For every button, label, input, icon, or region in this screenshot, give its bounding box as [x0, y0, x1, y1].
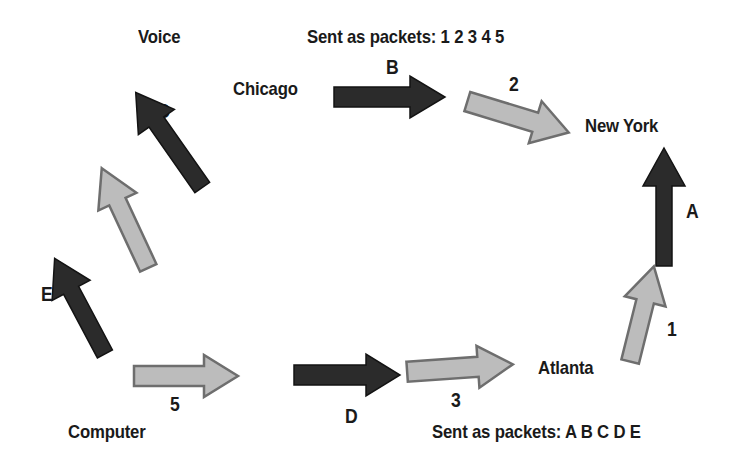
- arrow-e: [33, 246, 126, 366]
- node-label-voice: Voice: [138, 26, 181, 48]
- arrow-label-a: A: [686, 200, 699, 223]
- arrow-d: [292, 352, 402, 398]
- node-label-computer: Computer: [68, 421, 146, 443]
- arrow-1: [606, 258, 678, 371]
- packet-switching-diagram: Voice Sent as packets: 1 2 3 4 5 Chicago…: [0, 0, 738, 475]
- caption-packets-top: Sent as packets: 1 2 3 4 5: [307, 26, 504, 48]
- arrow-4: [79, 155, 172, 280]
- arrow-3: [402, 340, 517, 396]
- arrow-b: [332, 74, 447, 120]
- arrow-5: [131, 352, 241, 400]
- arrow-a: [641, 146, 687, 268]
- node-label-newyork: New York: [585, 115, 658, 137]
- node-label-chicago: Chicago: [233, 78, 298, 100]
- caption-packets-bottom: Sent as packets: A B C D E: [432, 421, 641, 443]
- node-label-atlanta: Atlanta: [538, 357, 593, 379]
- arrow-label-1: 1: [667, 318, 677, 341]
- arrow-label-d: D: [345, 405, 358, 428]
